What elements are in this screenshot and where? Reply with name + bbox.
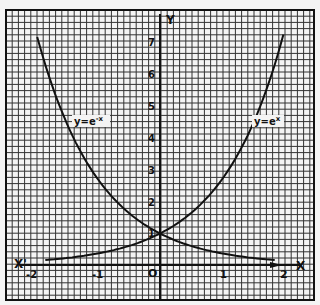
curve-label-e-neg-x: y=e-x xyxy=(72,115,110,127)
x-tick-label: -2 xyxy=(26,269,37,280)
y-tick-label: 2 xyxy=(148,197,155,208)
x-tick-label: -1 xyxy=(92,269,103,280)
x-tick-label: 2 xyxy=(280,268,288,281)
y-tick-label: 5 xyxy=(148,101,155,112)
curve-label-e-x: y=ex xyxy=(252,115,284,127)
origin-label: O xyxy=(148,267,157,280)
y-tick-label: 4 xyxy=(148,133,155,144)
x-tick-label: 1 xyxy=(220,269,227,280)
y-tick-label: 7 xyxy=(148,37,155,48)
x-axis-neg-label: X' xyxy=(14,257,27,271)
y-tick-label: 6 xyxy=(148,69,155,80)
exponential-chart: Y X X' O -2 -1 1 2 1 2 3 4 5 6 7 y=e-x y… xyxy=(0,0,320,305)
y-tick-label: 3 xyxy=(148,165,155,176)
y-tick-label: 1 xyxy=(148,228,155,239)
x-axis-label: X xyxy=(296,259,306,273)
y-axis-label: Y xyxy=(165,13,175,27)
